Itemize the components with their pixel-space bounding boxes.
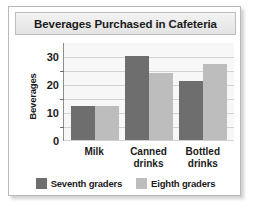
y-tick-20: 20 [37, 79, 59, 91]
legend-item-eighth-graders: Eighth graders [136, 178, 215, 189]
y-tick-10: 10 [37, 107, 59, 119]
x-label-milk: Milk [69, 143, 119, 177]
legend-label-eighth-graders: Eighth graders [151, 178, 215, 189]
x-label-bottled-line1: Bottled [178, 146, 228, 158]
bar-canned-seventh [125, 56, 149, 140]
legend-swatch-seventh-graders [36, 178, 47, 189]
chart-title: Beverages Purchased in Cafeteria [34, 18, 217, 30]
chart-plot-region: Beverages 0 10 20 30 [15, 39, 236, 191]
bar-group-bottled-drinks [179, 43, 227, 140]
x-label-canned-line2: drinks [123, 158, 173, 170]
x-axis-labels: Milk Canned drinks Bottled drinks [63, 143, 234, 177]
legend-swatch-eighth-graders [136, 178, 147, 189]
x-label-canned-drinks: Canned drinks [123, 143, 173, 177]
x-label-bottled-drinks: Bottled drinks [178, 143, 228, 177]
x-label-canned-line1: Canned [123, 146, 173, 158]
bar-group-milk [71, 43, 119, 140]
bar-bottled-seventh [179, 81, 203, 140]
chart-figure: Beverages Purchased in Cafeteria Beverag… [8, 6, 241, 196]
y-tick-30: 30 [37, 51, 59, 63]
plot-area [63, 43, 234, 141]
legend-item-seventh-graders: Seventh graders [36, 178, 122, 189]
bar-milk-eighth [95, 106, 119, 140]
chart-legend: Seventh graders Eighth graders [15, 175, 236, 191]
bar-group-canned-drinks [125, 43, 173, 140]
gridline-5 [64, 140, 234, 141]
x-label-bottled-line2: drinks [178, 158, 228, 170]
bar-bottled-eighth [203, 64, 227, 140]
bar-milk-seventh [71, 106, 95, 140]
bar-canned-eighth [149, 73, 173, 140]
legend-label-seventh-graders: Seventh graders [51, 178, 122, 189]
y-axis-ticks: 0 10 20 30 [33, 39, 59, 191]
bar-groups [64, 43, 234, 140]
y-tick-0: 0 [37, 135, 59, 147]
x-label-milk-line1: Milk [69, 146, 119, 158]
chart-title-banner: Beverages Purchased in Cafeteria [15, 12, 236, 35]
